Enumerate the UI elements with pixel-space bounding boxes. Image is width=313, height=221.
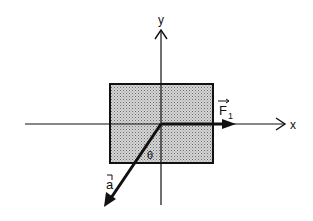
angle-theta-label: θ: [147, 149, 153, 161]
acceleration-label: a: [106, 177, 114, 192]
x-axis-label: x: [290, 118, 296, 132]
y-axis-label: y: [158, 13, 164, 27]
force-f1-label: F: [219, 103, 227, 118]
force-f1-subscript: 1: [228, 111, 233, 121]
force-diagram: x y F 1 a θ: [0, 0, 313, 221]
